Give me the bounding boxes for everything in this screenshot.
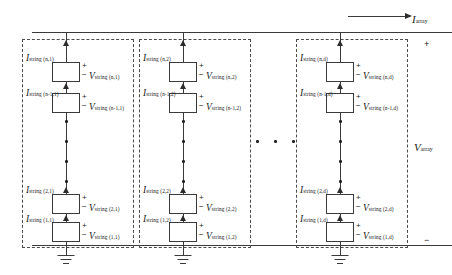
column-d-row-1-minus: −	[356, 231, 361, 239]
columns-ellipsis-dot-1	[256, 140, 259, 143]
i-array-arrow-shaft	[348, 16, 406, 17]
column-d-row-2-current-arrow	[337, 187, 343, 193]
column-1-row-n-plus: +	[82, 62, 87, 70]
column-1-row-n-voltage-label: Vstring (n,1)	[89, 66, 120, 82]
v-array-minus-sign: −	[424, 236, 429, 245]
column-d-row-2-plus: +	[356, 194, 361, 202]
column-d-row-n-current-label: Istring (n,d)	[300, 48, 328, 64]
current-subscript: string (2,2)	[146, 188, 171, 194]
column-2-row-n-source-block	[169, 62, 197, 82]
voltage-subscript: string (n-1,1)	[95, 105, 124, 111]
column-2-row-n-1-voltage-label: Vstring (n-1,2)	[206, 97, 241, 113]
circuit-diagram-canvas: Iarray + Varray − Istring (n,1) + − Vstr…	[0, 0, 452, 275]
column-2-row-n-current-label: Istring (n,2)	[143, 48, 171, 64]
column-d-row-2-current-label: Istring (2,d)	[300, 180, 328, 196]
i-array-label: Iarray	[412, 10, 428, 26]
voltage-subscript: string (n,1)	[95, 74, 120, 80]
voltage-subscript: string (1,2)	[212, 234, 237, 240]
column-2-row-n-minus: −	[199, 71, 204, 79]
column-1-row-n-current-arrow	[63, 40, 69, 46]
column-2-row-1-minus: −	[199, 231, 204, 239]
voltage-subscript: string (2,2)	[212, 206, 237, 212]
column-d-row-2-minus: −	[356, 203, 361, 211]
voltage-subscript: string (n,d)	[369, 74, 394, 80]
voltage-subscript: string (2,d)	[369, 206, 394, 212]
voltage-subscript: string (n,2)	[212, 74, 237, 80]
i-array-subscript: array	[416, 18, 428, 24]
column-1-row-1-plus: +	[82, 222, 87, 230]
voltage-subscript: string (2,1)	[95, 206, 120, 212]
column-2-ellipsis-dot-2	[182, 140, 185, 143]
column-2-row-1-source-block	[169, 222, 197, 242]
current-subscript: string (n,2)	[146, 56, 171, 62]
current-subscript: string (n-1,d)	[303, 91, 332, 97]
column-1-row-1-voltage-label: Vstring (1,1)	[89, 226, 120, 242]
column-1-ellipsis-dot-1	[65, 120, 68, 123]
v-array-subscript: array	[421, 146, 433, 152]
column-2-row-1-current-label: Istring (1,2)	[143, 209, 171, 225]
column-1-row-2-source-block	[52, 194, 80, 214]
i-array-arrow-head	[405, 13, 412, 19]
column-d-row-n-1-current-label: Istring (n-1,d)	[300, 83, 333, 99]
current-subscript: string (n-1,2)	[146, 91, 175, 97]
column-1-row-n-minus: −	[82, 71, 87, 79]
column-1-row-n-bottom-arrow	[63, 83, 69, 89]
current-subscript: string (1,d)	[303, 217, 328, 223]
column-1-row-n-1-voltage-label: Vstring (n-1,1)	[89, 97, 124, 113]
column-2-row-n-plus: +	[199, 62, 204, 70]
v-array-label: Varray	[414, 138, 433, 154]
column-2-row-n-bottom-arrow	[180, 83, 186, 89]
column-2-row-n-voltage-label: Vstring (n,2)	[206, 66, 237, 82]
voltage-subscript: string (n-1,d)	[369, 105, 398, 111]
column-d-ellipsis-dot-3	[339, 160, 342, 163]
column-d-row-n-1-minus: −	[356, 102, 361, 110]
column-d-ellipsis-dot-4	[339, 180, 342, 183]
column-1-row-2-minus: −	[82, 203, 87, 211]
column-1-ellipsis-dot-3	[65, 160, 68, 163]
column-d-row-n-current-arrow	[337, 40, 343, 46]
column-d-row-n-1-voltage-label: Vstring (n-1,d)	[363, 97, 398, 113]
column-1-row-2-plus: +	[82, 194, 87, 202]
column-2-row-2-source-block	[169, 194, 197, 214]
column-1-row-2-current-label: Istring (2,1)	[26, 180, 54, 196]
column-d-row-n-voltage-label: Vstring (n,d)	[363, 66, 394, 82]
column-d-row-1-plus: +	[356, 222, 361, 230]
column-d-row-1-current-arrow	[337, 215, 343, 221]
column-1-row-1-minus: −	[82, 231, 87, 239]
current-subscript: string (2,1)	[29, 188, 54, 194]
column-2-row-2-current-label: Istring (2,2)	[143, 180, 171, 196]
column-1-row-2-current-arrow	[63, 187, 69, 193]
column-d-row-1-current-label: Istring (1,d)	[300, 209, 328, 225]
column-2-row-2-plus: +	[199, 194, 204, 202]
column-d-row-n-1-plus: +	[356, 93, 361, 101]
column-d-row-1-source-block	[326, 222, 354, 242]
column-d-row-n-source-block	[326, 62, 354, 82]
column-d-row-n-plus: +	[356, 62, 361, 70]
current-subscript: string (1,2)	[146, 217, 171, 223]
column-1-ellipsis-dot-4	[65, 180, 68, 183]
column-2-ground-stem	[183, 245, 184, 255]
columns-ellipsis-dot-2	[274, 140, 277, 143]
top-bus-wire	[32, 32, 452, 33]
voltage-subscript: string (1,d)	[369, 234, 394, 240]
current-subscript: string (n,d)	[303, 56, 328, 62]
voltage-subscript: string (1,1)	[95, 234, 120, 240]
column-2-ellipsis-dot-4	[182, 180, 185, 183]
v-array-plus-sign: +	[424, 40, 429, 49]
current-subscript: string (n,1)	[29, 56, 54, 62]
column-2-row-n-1-current-label: Istring (n-1,2)	[143, 83, 176, 99]
column-2-row-n-current-arrow	[180, 40, 186, 46]
columns-ellipsis-dot-3	[292, 140, 295, 143]
column-1-row-n-1-current-label: Istring (n-1,1)	[26, 83, 59, 99]
column-d-row-2-source-block	[326, 194, 354, 214]
column-d-row-n-bottom-arrow	[337, 83, 343, 89]
column-1-row-1-current-label: Istring (1,1)	[26, 209, 54, 225]
column-2-row-2-minus: −	[199, 203, 204, 211]
column-2-row-1-current-arrow	[180, 215, 186, 221]
current-subscript: string (n-1,1)	[29, 91, 58, 97]
column-d-ellipsis-dot-1	[339, 120, 342, 123]
column-2-ellipsis-dot-3	[182, 160, 185, 163]
column-2-row-1-voltage-label: Vstring (1,2)	[206, 226, 237, 242]
column-d-ellipsis-dot-2	[339, 140, 342, 143]
column-1-row-n-source-block	[52, 62, 80, 82]
